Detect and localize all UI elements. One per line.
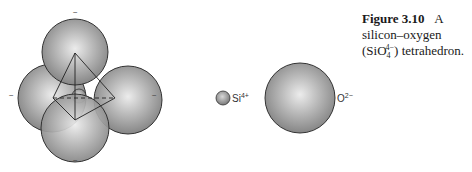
silicon-oxygen-tetrahedron — [18, 19, 162, 162]
oxygen-ion-sphere — [265, 63, 335, 133]
formula-superscript: 4− — [386, 43, 395, 52]
silicon-ion-sphere — [216, 91, 230, 105]
oxygen-ion-label: O2− — [337, 92, 353, 104]
caption-title-word: A — [434, 11, 443, 26]
charge-left: − — [9, 91, 14, 100]
charge-top: − — [73, 8, 78, 17]
silicon-charge: 4+ — [241, 92, 249, 99]
formula-open: (SiO — [362, 43, 387, 58]
charge-right: − — [152, 91, 157, 100]
formula-subscript: 4 — [387, 51, 391, 60]
oxygen-charge: 2− — [345, 92, 353, 99]
silicon-symbol: Si — [232, 93, 241, 104]
caption-line-3: (SiO44−) tetrahedron. — [362, 43, 472, 61]
formula-close: ) tetrahedron. — [394, 43, 464, 58]
silicon-ion-label: Si4+ — [232, 92, 249, 104]
figure-number: Figure 3.10 — [362, 11, 425, 26]
figure-caption: Figure 3.10 A silicon–oxygen (SiO44−) te… — [362, 11, 472, 61]
oxygen-symbol: O — [337, 93, 345, 104]
charge-bottom: − — [73, 156, 78, 165]
caption-line-2: silicon–oxygen — [362, 27, 472, 43]
